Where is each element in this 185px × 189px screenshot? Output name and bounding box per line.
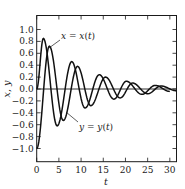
x-tick-label: 10: [75, 165, 87, 175]
y-curve: [37, 46, 177, 148]
damped-oscillation-chart: 1.00.80.60.40.20.0−0.2−0.4−0.6−0.8−1.0 0…: [0, 0, 185, 189]
y-tick-label: 0.4: [19, 60, 34, 70]
x-annotation-leader: [49, 40, 60, 48]
y-annotation: y = y(t): [78, 122, 113, 132]
x-tick-label: 30: [164, 165, 176, 175]
y-annotation-leader: [66, 112, 78, 122]
x-tick-label: 5: [56, 165, 62, 175]
x-tick-label: 20: [120, 165, 132, 175]
y-tick-label: −0.6: [12, 120, 34, 130]
y-tick-label: −1.0: [12, 144, 34, 154]
y-axis-label: x, y: [1, 80, 12, 97]
x-axis-ticks: 051015202530: [34, 16, 176, 175]
y-tick-label: −0.8: [12, 132, 34, 142]
y-tick-label: 0.2: [19, 72, 33, 82]
y-tick-label: 0.8: [19, 36, 34, 46]
x-annotation: x = x(t): [61, 31, 95, 41]
x-tick-label: 0: [34, 165, 40, 175]
x-tick-label: 25: [142, 165, 154, 175]
x-tick-label: 15: [98, 165, 110, 175]
y-tick-label: 1.0: [19, 25, 34, 35]
y-tick-label: −0.4: [12, 108, 34, 118]
y-tick-label: −0.2: [12, 96, 34, 106]
x-axis-label: t: [104, 176, 108, 187]
y-tick-label: 0.6: [19, 48, 34, 58]
y-tick-label: 0.0: [19, 84, 34, 94]
